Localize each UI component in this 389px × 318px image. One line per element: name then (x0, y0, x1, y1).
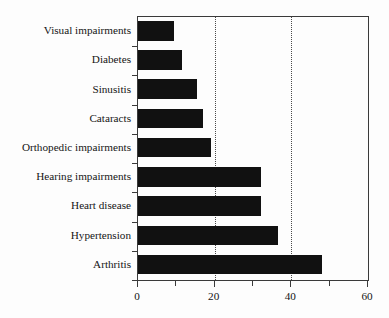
x-axis-minor-tick (175, 281, 176, 286)
bar (138, 79, 197, 99)
y-axis-label: Hypertension (0, 230, 131, 241)
x-axis-tick (367, 281, 368, 287)
y-axis-tick (132, 46, 138, 47)
bar (138, 167, 261, 187)
y-axis-label: Heart disease (0, 200, 131, 211)
x-axis-minor-tick (252, 281, 253, 286)
y-axis-label: Diabetes (0, 54, 131, 65)
bar-row (138, 251, 368, 280)
x-axis-tick-label: 60 (361, 290, 372, 302)
bar-row (138, 46, 368, 75)
x-axis-tick-label: 40 (285, 290, 296, 302)
bar (138, 196, 261, 216)
y-axis-tick (132, 163, 138, 164)
y-axis-label: Orthopedic impairments (0, 142, 131, 153)
bars-container (138, 17, 368, 280)
bar-row (138, 17, 368, 46)
x-axis-tick (290, 281, 291, 287)
y-axis-label: Arthritis (0, 259, 131, 270)
y-axis-labels: Visual impairmentsDiabetesSinusitisCatar… (0, 17, 131, 280)
x-axis-tick (214, 281, 215, 287)
x-axis-tick-label: 20 (208, 290, 219, 302)
bar (138, 138, 211, 158)
bar-row (138, 222, 368, 251)
bar-chart: Visual impairmentsDiabetesSinusitisCatar… (0, 0, 389, 318)
bar (138, 226, 278, 246)
x-axis-minor-tick (329, 281, 330, 286)
bar (138, 109, 203, 129)
y-axis-label: Cataracts (0, 113, 131, 124)
y-axis-tick (132, 192, 138, 193)
bar-row (138, 134, 368, 163)
bar-row (138, 105, 368, 134)
y-axis-label: Sinusitis (0, 84, 131, 95)
y-axis-label: Hearing impairments (0, 171, 131, 182)
x-axis-tick (137, 281, 138, 287)
y-axis-tick (132, 251, 138, 252)
bar-row (138, 75, 368, 104)
bar (138, 50, 182, 70)
y-axis-tick (132, 134, 138, 135)
y-axis-tick (132, 222, 138, 223)
x-axis-tick-label: 0 (134, 290, 140, 302)
bar-row (138, 163, 368, 192)
y-axis-label: Visual impairments (0, 25, 131, 36)
bar (138, 255, 322, 275)
y-axis-tick (132, 105, 138, 106)
bar-row (138, 192, 368, 221)
bar (138, 21, 174, 41)
y-axis-tick (132, 75, 138, 76)
